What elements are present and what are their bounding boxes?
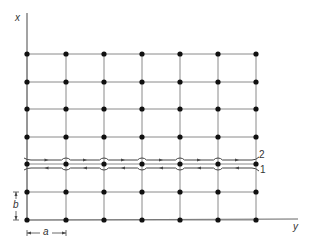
lattice-node <box>24 134 29 139</box>
lattice-node <box>139 161 144 166</box>
contour-label-2: 2 <box>259 150 265 160</box>
arrow-icon <box>15 216 18 220</box>
lattice-node <box>63 51 68 56</box>
x-axis-label: x <box>15 13 20 23</box>
lattice-node <box>24 217 29 222</box>
lattice-node <box>63 161 68 166</box>
y-axis-label: y <box>293 222 298 232</box>
arrow-icon <box>45 159 49 162</box>
lattice-node <box>215 161 220 166</box>
arrow-icon <box>27 232 31 235</box>
arrow-icon <box>235 159 239 162</box>
lattice-node <box>177 79 182 84</box>
lattice-node <box>63 134 68 139</box>
lattice-node <box>24 79 29 84</box>
lattice-node <box>215 217 220 222</box>
lattice-node <box>215 106 220 111</box>
lattice-diagram <box>0 0 312 247</box>
arrow-icon <box>197 167 201 170</box>
lattice-node <box>101 79 106 84</box>
lattice-node <box>177 189 182 194</box>
lattice-node <box>253 217 258 222</box>
lattice-node <box>177 134 182 139</box>
lattice-node <box>63 217 68 222</box>
lattice-node <box>253 79 258 84</box>
lattice-node <box>253 134 258 139</box>
arrow-icon <box>121 167 125 170</box>
lattice-node <box>177 217 182 222</box>
lattice-node <box>24 189 29 194</box>
lattice-node <box>139 189 144 194</box>
lattice-node <box>101 134 106 139</box>
lattice-node <box>101 51 106 56</box>
lattice-node <box>63 189 68 194</box>
lattice-node <box>24 106 29 111</box>
lattice-node <box>101 189 106 194</box>
lattice-node <box>253 106 258 111</box>
spacing-a-label: a <box>43 227 49 237</box>
lattice-node <box>139 51 144 56</box>
arrow-icon <box>121 159 125 162</box>
lattice-node <box>215 79 220 84</box>
lattice-node <box>177 51 182 56</box>
lattice-node <box>139 134 144 139</box>
arrow-icon <box>83 159 87 162</box>
lattice-node <box>24 161 29 166</box>
lattice-node <box>215 189 220 194</box>
lattice-node <box>253 51 258 56</box>
arrow-icon <box>197 159 201 162</box>
lattice-node <box>177 161 182 166</box>
arrow-icon <box>62 232 66 235</box>
contour-label-1: 1 <box>260 165 266 175</box>
lattice-node <box>139 106 144 111</box>
lattice-node <box>253 161 258 166</box>
lattice-node <box>63 79 68 84</box>
lattice-node <box>253 189 258 194</box>
arrow-icon <box>159 167 163 170</box>
lattice-node <box>139 79 144 84</box>
arrow-icon <box>45 167 49 170</box>
lattice-node <box>24 51 29 56</box>
arrow-icon <box>159 159 163 162</box>
lattice-node <box>101 106 106 111</box>
lattice-node <box>177 106 182 111</box>
lattice-node <box>215 134 220 139</box>
arrow-icon <box>235 167 239 170</box>
lattice-node <box>101 217 106 222</box>
lattice-node <box>215 51 220 56</box>
lattice-node <box>63 106 68 111</box>
spacing-b-label: b <box>13 200 19 210</box>
lattice-node <box>139 217 144 222</box>
arrow-icon <box>15 192 18 196</box>
lattice-node <box>101 161 106 166</box>
arrow-icon <box>83 167 87 170</box>
